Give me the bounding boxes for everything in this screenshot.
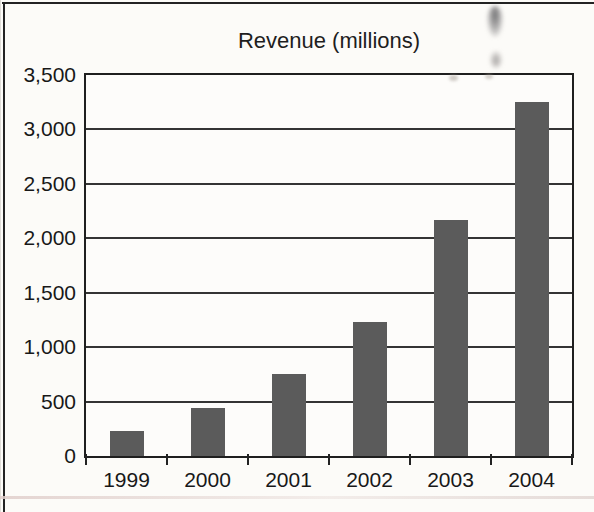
bar-2004 — [515, 102, 549, 456]
bar-2003 — [434, 220, 468, 456]
x-axis-labels: 199920002001200220032004 — [86, 467, 572, 495]
y-tick-label-3000: 3,000 — [2, 118, 76, 140]
y-tick-label-0: 0 — [2, 445, 76, 467]
x-tick-label-2001: 2001 — [248, 467, 329, 492]
y-tick-label-3500: 3,500 — [2, 64, 76, 86]
gridline-2500 — [86, 183, 572, 185]
x-axis-tick — [85, 454, 87, 465]
x-axis-tick — [490, 454, 492, 465]
scan-page-edge — [0, 0, 1, 512]
gridline-1500 — [86, 292, 572, 294]
bar-2002 — [353, 322, 387, 456]
gridline-1000 — [86, 346, 572, 348]
plot-area — [84, 73, 574, 458]
gridline-500 — [86, 401, 572, 403]
x-axis-ticks — [86, 454, 572, 465]
x-axis-tick — [328, 454, 330, 465]
x-tick-label-2000: 2000 — [167, 467, 248, 492]
y-tick-label-2500: 2,500 — [2, 173, 76, 195]
gridline-3000 — [86, 128, 572, 130]
x-tick-label-1999: 1999 — [86, 467, 167, 492]
chart-title: Revenue (millions) — [86, 28, 572, 54]
y-tick-label-2000: 2,000 — [2, 227, 76, 249]
y-tick-label-500: 500 — [2, 391, 76, 413]
gridline-2000 — [86, 237, 572, 239]
y-tick-label-1500: 1,500 — [2, 282, 76, 304]
bar-2001 — [272, 374, 306, 456]
bar-1999 — [110, 431, 144, 456]
outer-frame-top-border — [2, 2, 594, 4]
x-tick-label-2004: 2004 — [491, 467, 572, 492]
x-tick-label-2002: 2002 — [329, 467, 410, 492]
x-tick-label-2003: 2003 — [410, 467, 491, 492]
x-axis-tick — [571, 454, 573, 465]
bar-2000 — [191, 408, 225, 456]
y-tick-label-1000: 1,000 — [2, 336, 76, 358]
x-axis-tick — [409, 454, 411, 465]
y-axis-labels: 3,5003,0002,5002,0001,5001,0005000 — [2, 75, 78, 456]
scan-artifact-line — [0, 496, 594, 499]
x-axis-tick — [247, 454, 249, 465]
x-axis-tick — [166, 454, 168, 465]
scanned-chart-page: Revenue (millions) 3,5003,0002,5002,0001… — [0, 0, 594, 512]
